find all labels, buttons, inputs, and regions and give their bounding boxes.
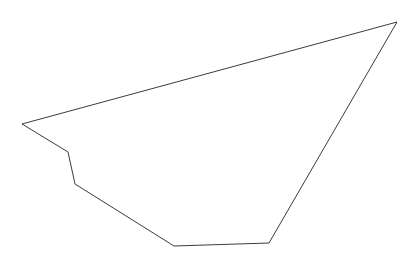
canvas-background	[0, 0, 418, 268]
drawing-canvas	[0, 0, 418, 268]
polygon-svg	[0, 0, 418, 268]
